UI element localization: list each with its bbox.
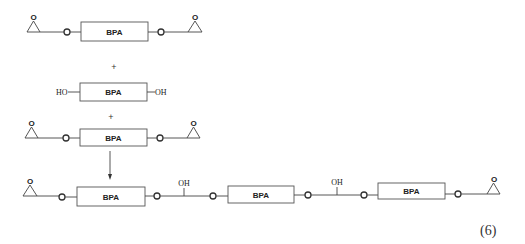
epoxide-icon: O	[23, 177, 37, 196]
hydroxyl-label: OH	[331, 178, 343, 187]
epoxide-oxygen: O	[491, 175, 497, 184]
ether-oxygen	[158, 29, 164, 35]
hydroxyl-left: HO	[56, 88, 68, 97]
plus-sign: +	[108, 112, 113, 122]
bpa-label: BPA	[103, 193, 120, 202]
reaction-arrow-icon	[108, 151, 112, 180]
epoxide-icon: O	[27, 13, 40, 32]
bpa-label: BPA	[253, 191, 270, 200]
epoxide-icon: O	[187, 119, 200, 138]
ether-oxygen	[305, 192, 311, 198]
bpa-label: BPA	[105, 134, 122, 143]
reactant-diglycidyl-ether-2: O BPA O	[25, 119, 200, 146]
ether-oxygen	[455, 191, 461, 197]
ether-oxygen	[361, 192, 367, 198]
epoxide-icon: O	[25, 119, 38, 138]
epoxide-oxygen: O	[31, 13, 37, 22]
hydroxyl-label: OH	[178, 179, 190, 188]
equation-number: (6)	[480, 223, 497, 239]
ether-oxygen	[210, 193, 216, 199]
ether-oxygen	[59, 194, 65, 200]
epoxide-icon: O	[188, 13, 202, 32]
bpa-label: BPA	[403, 187, 420, 196]
ether-oxygen	[157, 135, 163, 141]
reaction-diagram: O BPA O + HO BPA OH + O BPA	[0, 0, 525, 244]
reactant-diglycidyl-ether-1: O BPA O	[27, 13, 202, 41]
plus-sign: +	[111, 62, 116, 72]
ether-oxygen	[154, 193, 160, 199]
ether-oxygen	[63, 135, 69, 141]
reactant-bisphenol-a: HO BPA OH	[56, 83, 167, 101]
product-chain: O BPA OH BPA OH BPA O	[23, 175, 500, 206]
bpa-label: BPA	[106, 28, 123, 37]
epoxide-oxygen: O	[29, 119, 35, 128]
epoxide-oxygen: O	[192, 13, 198, 22]
epoxide-icon: O	[487, 175, 500, 194]
epoxide-oxygen: O	[27, 177, 33, 186]
epoxide-oxygen: O	[191, 119, 197, 128]
bpa-label: BPA	[105, 88, 122, 97]
ether-oxygen	[64, 29, 70, 35]
hydroxyl-right: OH	[155, 88, 167, 97]
